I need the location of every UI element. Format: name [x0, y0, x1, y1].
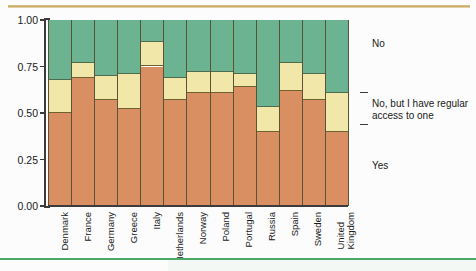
bar-segment-no-but-access [72, 63, 94, 78]
bar-segment-yes [211, 93, 233, 206]
y-axis-tick [40, 112, 46, 114]
stacked-bar [163, 20, 187, 206]
bar-segment-no-but-access [141, 42, 163, 66]
bar-segment-no [95, 20, 117, 76]
bar-segment-no [141, 20, 163, 42]
x-axis-label-text: Greece [129, 212, 139, 243]
x-axis-label-text: Germany [106, 212, 116, 251]
bar-segment-no [257, 20, 279, 107]
legend-leader-tick [360, 92, 368, 93]
x-axis-label-text: Russia [267, 212, 277, 241]
bar-segment-no-but-access [303, 74, 325, 100]
y-axis-tick-label: 0.25 [0, 155, 38, 166]
legend-item: Yes [372, 160, 388, 172]
stacked-bar [325, 20, 349, 206]
y-axis-tick-label: 0.00 [0, 201, 38, 212]
bar-segment-no [72, 20, 94, 63]
stacked-bar [140, 20, 164, 206]
bar-segment-no-but-access [211, 72, 233, 92]
x-axis-label-text: Poland [221, 212, 231, 242]
bar-segment-no [118, 20, 140, 74]
y-axis-tick [40, 19, 46, 21]
y-axis-tick [40, 159, 46, 161]
plot-bottom-border [48, 205, 348, 207]
top-divider-rule [8, 5, 470, 8]
bar-segment-no-but-access [95, 76, 117, 100]
bar-group [48, 20, 348, 206]
bar-segment-no [49, 20, 71, 80]
plot-area [48, 20, 348, 206]
chart-legend: NoNo, but I have regularaccess to oneYes [372, 20, 476, 210]
stacked-bar [94, 20, 118, 206]
bar-segment-yes [257, 132, 279, 206]
bar-segment-no-but-access [164, 78, 186, 100]
bar-segment-no-but-access [118, 74, 140, 109]
bar-segment-yes [280, 91, 302, 206]
stacked-bar [256, 20, 280, 206]
legend-item: No [372, 38, 385, 50]
stacked-bar [48, 20, 72, 206]
bar-segment-yes [141, 67, 163, 207]
stacked-bar [117, 20, 141, 206]
x-axis-label-text: Italy [152, 212, 162, 229]
bar-segment-yes [326, 132, 348, 206]
y-axis-tick [40, 205, 46, 207]
y-axis-tick-label: 0.75 [0, 62, 38, 73]
bar-segment-yes [118, 109, 140, 206]
bar-segment-yes [164, 100, 186, 206]
bar-segment-no [303, 20, 325, 74]
x-axis-label-text: United Kingdom [336, 212, 356, 250]
x-axis-label-text: Denmark [60, 212, 70, 251]
bar-segment-yes [49, 113, 71, 206]
bar-segment-no-but-access [187, 72, 209, 92]
bar-segment-no-but-access [326, 93, 348, 132]
legend-label: access to one [372, 110, 468, 122]
stacked-bar [279, 20, 303, 206]
stacked-bar [233, 20, 257, 206]
y-axis-tick-label: 0.50 [0, 108, 38, 119]
legend-label: No, but I have regular [372, 98, 468, 110]
bar-segment-no-but-access [234, 74, 256, 87]
bar-segment-no [326, 20, 348, 93]
x-axis-label-text: Spain [290, 212, 300, 236]
x-axis-label-text: France [83, 212, 93, 242]
x-axis-label-text: Portugal [244, 212, 254, 247]
bar-segment-no [234, 20, 256, 74]
x-axis-label-text: Sweden [313, 212, 323, 246]
bar-segment-no-but-access [257, 107, 279, 131]
stacked-bar [302, 20, 326, 206]
stacked-bar [71, 20, 95, 206]
chart-figure: 0.000.250.500.751.00 DenmarkFranceGerman… [0, 0, 476, 271]
x-axis-label-text: Netherlands [175, 212, 185, 263]
bar-segment-no [280, 20, 302, 63]
bar-segment-no [211, 20, 233, 72]
y-axis-tick [40, 66, 46, 68]
bar-segment-no-but-access [280, 63, 302, 91]
x-axis-label-text: Norway [198, 212, 208, 244]
legend-label: Yes [372, 160, 388, 172]
legend-leader-tick [360, 124, 368, 125]
stacked-bar [210, 20, 234, 206]
legend-label: No [372, 38, 385, 50]
bar-segment-yes [72, 78, 94, 206]
bar-segment-yes [303, 100, 325, 206]
bar-segment-no [187, 20, 209, 72]
bottom-divider-rule [0, 258, 476, 260]
bar-segment-no [164, 20, 186, 78]
stacked-bar [186, 20, 210, 206]
bar-segment-yes [187, 93, 209, 206]
bar-segment-no-but-access [49, 80, 71, 113]
bar-segment-yes [95, 100, 117, 206]
y-axis-tick-label: 1.00 [0, 15, 38, 26]
bar-segment-yes [234, 87, 256, 206]
legend-item: No, but I have regularaccess to one [372, 98, 468, 121]
